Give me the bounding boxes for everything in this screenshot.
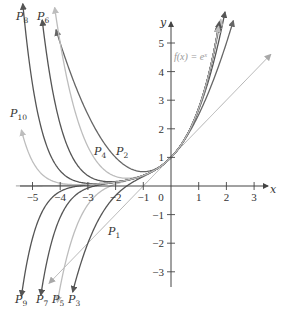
x-tick-label: −5: [27, 191, 39, 203]
y-tick-label: −2: [152, 237, 164, 249]
ticks-layer: −5−4−3−2−10123−3−2−112345: [27, 37, 258, 278]
y-tick-label: 2: [159, 123, 165, 135]
function-label: f(x) = eˣ: [174, 51, 208, 63]
series-label-p8: P8: [15, 10, 28, 25]
x-tick-label: 1: [196, 191, 202, 203]
y-axis-label: y: [159, 16, 167, 29]
x-tick-label: −2: [110, 191, 122, 203]
x-tick-label: −1: [137, 191, 149, 203]
taylor-polynomial-chart: x y f(x) = eˣ −5−4−3−2−10123−3−2−112345 …: [0, 0, 282, 314]
series-label-p6: P6: [36, 10, 49, 25]
series-p6: [42, 20, 219, 182]
x-tick-label: −3: [82, 191, 94, 203]
series-label-p3: P3: [67, 293, 80, 308]
series-label-p9: P9: [14, 293, 27, 308]
x-tick-label: 0: [158, 191, 164, 203]
y-tick-label: 5: [159, 37, 165, 49]
x-tick-label: −4: [54, 191, 66, 203]
x-axis-label: x: [270, 183, 277, 196]
series-label-p4: P4: [93, 145, 106, 160]
series-p4: [55, 8, 221, 179]
y-tick-label: 3: [159, 94, 165, 106]
series-label-p10: P10: [9, 107, 27, 122]
x-tick-label: 2: [224, 191, 230, 203]
x-tick-label: 3: [251, 191, 257, 203]
series-label-p2: P2: [115, 145, 128, 160]
y-tick-label: 4: [159, 66, 165, 78]
y-tick-label: −1: [152, 209, 164, 221]
series-p2: [56, 21, 233, 172]
axes-layer: x y f(x) = eˣ: [20, 16, 277, 287]
series-label-p5: P5: [51, 293, 64, 308]
y-tick-label: 1: [159, 151, 165, 163]
y-tick-label: −3: [152, 266, 164, 278]
series-label-p7: P7: [35, 293, 48, 308]
series-label-p1: P1: [107, 225, 120, 240]
curves-layer: [16, 4, 271, 302]
